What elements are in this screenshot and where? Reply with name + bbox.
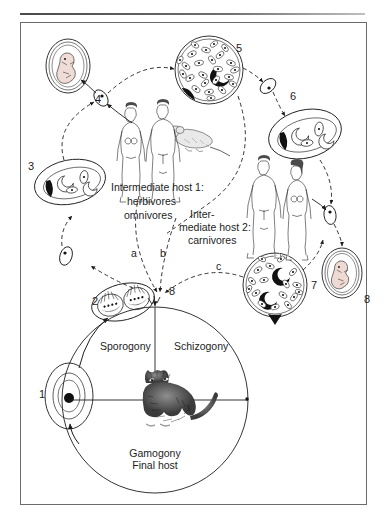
sporogony-label: Sporogony [100,340,151,352]
mouse-intermediate-host [170,126,230,156]
route-letter-a: a [131,247,137,259]
life-cycle-diagram [0,0,385,521]
stage-number-6: 6 [290,90,296,103]
stage-number-5: 5 [236,42,242,55]
gamogony-label: Gamogony [119,447,191,459]
human-female-host-2 [283,159,311,260]
stage-3-tachyzoite-group [30,153,110,211]
schizogony-label: Schizogony [174,340,228,352]
cat-final-host [143,370,218,426]
stage-number-7: 7 [311,279,317,292]
stage-number-2: 2 [92,295,98,308]
intermediate-host-2-line2: mediate host 2: [179,221,251,233]
stage-number-1: 1 [39,388,45,401]
stage-1-unsporulated-oocyst [45,363,93,429]
route-letter-c: c [216,260,221,272]
free-zoite-lower-left [57,245,74,267]
stage-6-tachyzoite-group [263,102,346,166]
intermediate-host-2-line3: carnivores [188,234,236,246]
stage-number-8-fetus: 8 [364,293,370,306]
intermediate-host-1-line3: omnivores [124,209,172,221]
stage-8-fetus [322,248,362,298]
stage-2-sporulated-oocyst [88,277,159,327]
intermediate-host-2-line1: Inter- [190,208,215,220]
stage-number-3: 3 [28,160,34,173]
intermediate-host-1-line1: Intermediate host 1: [111,181,204,193]
stage-4-fetus [46,39,90,93]
free-zoite-right [323,205,338,225]
stage-number-8-ingestion: 8 [169,285,175,298]
figure-page: 5 4 3 6 7 8 2 1 8 a b c Intermediate hos… [0,0,385,521]
final-host-label: Final host [119,459,191,471]
human-male-host-2 [247,155,281,258]
free-zoite-upper-right [257,76,278,97]
route-letter-b: b [160,247,166,259]
stage-5-tissue-cyst [175,36,243,104]
stage-7-tissue-cyst [243,253,307,325]
intermediate-host-1-line2: herbivores [127,195,176,207]
stage-number-4: 4 [95,93,101,106]
